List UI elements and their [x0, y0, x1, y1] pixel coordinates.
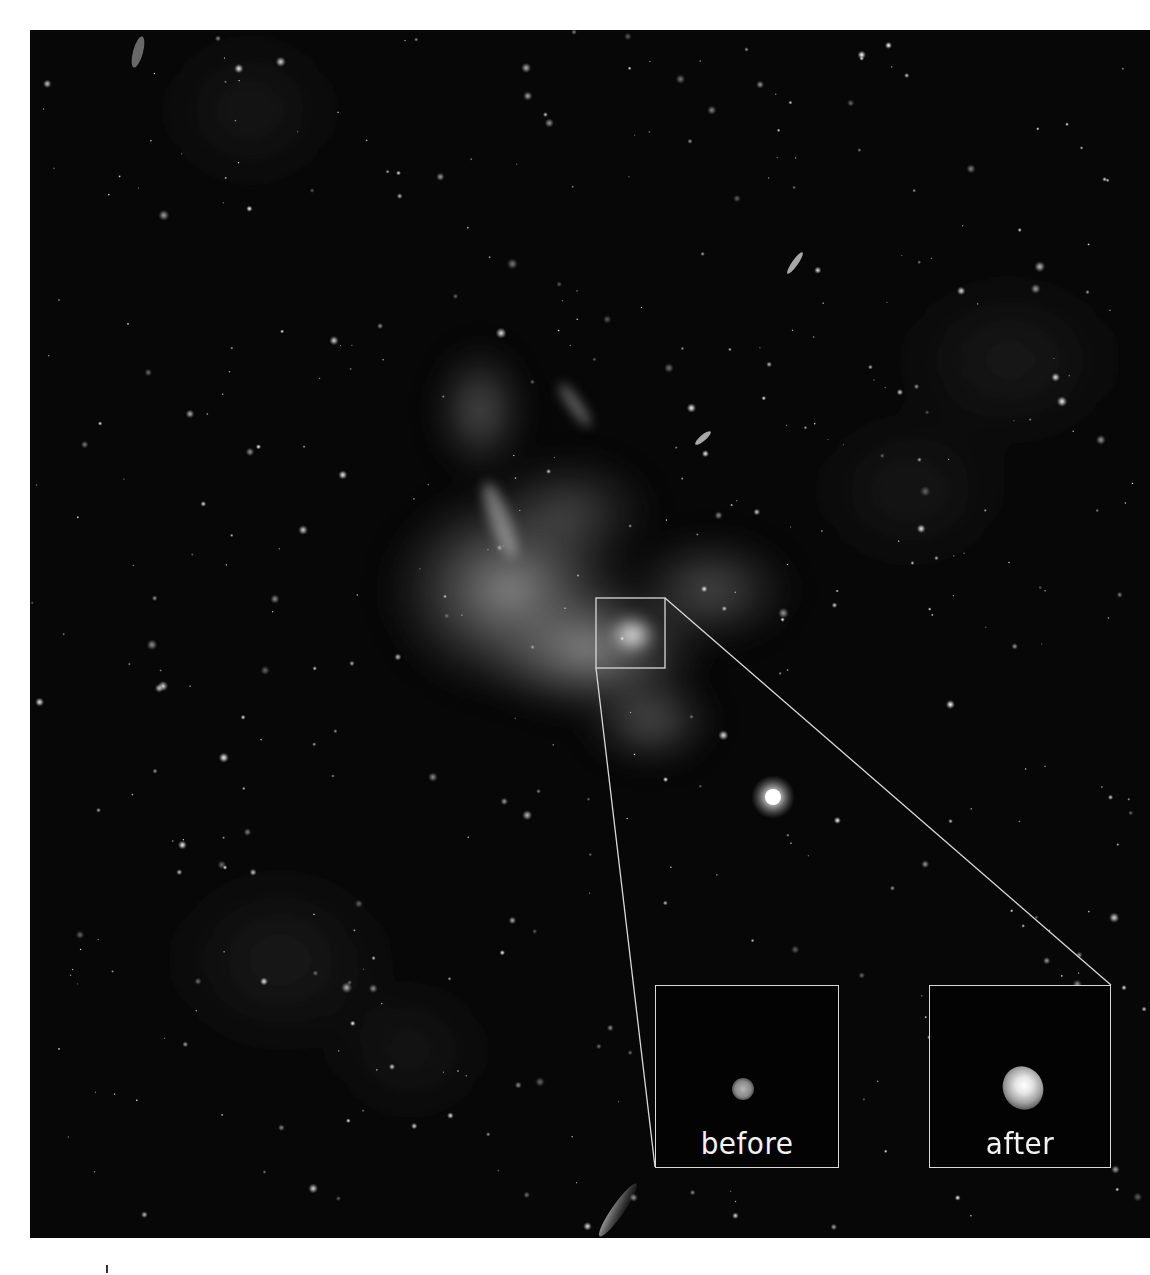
connector-right	[665, 598, 1111, 985]
inset-before: before	[655, 985, 839, 1168]
nebula	[380, 340, 800, 770]
source-before	[732, 1078, 754, 1100]
tick-mark	[106, 1265, 108, 1273]
inset-after: after	[929, 985, 1111, 1168]
before-label: before	[656, 1125, 838, 1161]
after-label: after	[930, 1125, 1110, 1161]
source-after	[996, 1060, 1051, 1117]
